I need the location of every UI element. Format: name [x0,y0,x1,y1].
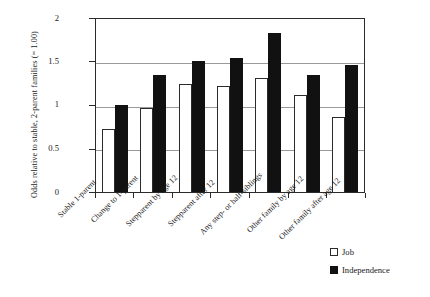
white-square-icon [330,248,338,256]
chart-legend: Job Independence [330,247,390,283]
legend-label-independence: Independence [342,265,390,275]
bar-group-1 [134,19,172,192]
y-tick-label-1: 1 [31,100,59,109]
bar-group-4 [249,19,287,192]
plot-area [95,18,365,193]
legend-label-job: Job [342,247,354,257]
y-tick-label-2: 2 [31,14,59,23]
x-tick-mark-2 [172,193,173,198]
bar-independence-4 [268,33,281,192]
bar-independence-5 [307,75,320,192]
y-tick-label-0_5: 0.5 [31,144,59,153]
y-tick-label-1_5: 1.5 [31,57,59,66]
bar-job-3 [217,86,230,192]
x-axis-label-stable-1-parent: Stable 1-parent [56,178,98,220]
bar-group-2 [173,19,211,192]
legend-item-independence: Independence [330,265,390,275]
bar-group-3 [211,19,249,192]
x-tick-mark-3 [210,193,211,198]
bar-independence-2 [192,61,205,192]
x-tick-mark-4 [249,193,250,198]
y-tick-label-0: 0 [31,188,59,197]
bar-group-0 [96,19,134,192]
x-tick-mark-0 [95,193,96,198]
bar-job-1 [140,108,153,192]
black-square-icon [330,266,338,274]
bars-layer [96,19,364,192]
x-tick-mark-7 [365,193,366,198]
bar-independence-3 [230,58,243,192]
bar-group-6 [326,19,364,192]
bar-group-5 [287,19,325,192]
bar-independence-6 [345,65,358,192]
x-tick-mark-1 [133,193,134,198]
bar-job-0 [102,129,115,192]
bar-job-2 [179,84,192,193]
bar-independence-1 [153,75,166,192]
bar-chart-figure: Odds relative to stable, 2-parent famili… [0,0,430,297]
legend-item-job: Job [330,247,390,257]
